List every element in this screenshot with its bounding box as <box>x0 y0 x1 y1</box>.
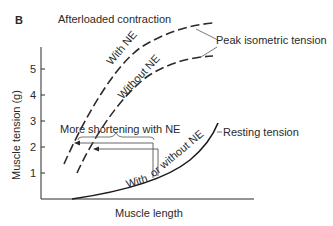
y-axis-label: Muscle tension (g) <box>11 90 22 180</box>
panel-label: B <box>15 15 23 26</box>
resting-tension-label: Resting tension <box>223 127 299 138</box>
y-tick-label-3: 3 <box>30 116 36 127</box>
x-axis-label: Muscle length <box>115 208 183 219</box>
peak-leader-with <box>196 29 218 40</box>
y-tick-label-4: 4 <box>30 90 36 101</box>
y-tick-label-2: 2 <box>30 142 36 153</box>
peak-isometric-label: Peak isometric tension <box>216 35 327 46</box>
arrowhead-without-ne <box>93 147 99 152</box>
y-tick-label-5: 5 <box>30 64 36 75</box>
y-tick-label-1: 1 <box>30 168 36 179</box>
shortening-label: More shortening with NE <box>60 124 180 135</box>
arrowhead-with-ne <box>74 141 80 146</box>
chart-title: Afterloaded contraction <box>58 14 171 25</box>
